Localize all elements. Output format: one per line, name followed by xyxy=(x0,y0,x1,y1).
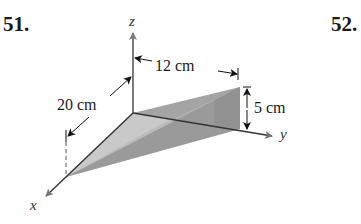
wedge-diagram: z y x 20 cm 12 cm 5 cm xyxy=(0,0,361,224)
dimension-12cm: 12 cm xyxy=(135,57,238,80)
dim-12-arrow-left xyxy=(135,58,152,61)
dim-12-arrow-right xyxy=(218,71,237,74)
z-axis-label: z xyxy=(128,13,135,29)
dim-5-label: 5 cm xyxy=(254,99,286,116)
dim-20-arrow-down xyxy=(68,117,89,136)
x-axis-label: x xyxy=(29,197,37,213)
dim-12-label: 12 cm xyxy=(155,57,195,74)
y-axis-label: y xyxy=(278,126,287,142)
dim-20-arrow-up xyxy=(110,77,131,96)
dim-20-label: 20 cm xyxy=(57,96,97,113)
dimension-5cm: 5 cm xyxy=(243,87,286,129)
